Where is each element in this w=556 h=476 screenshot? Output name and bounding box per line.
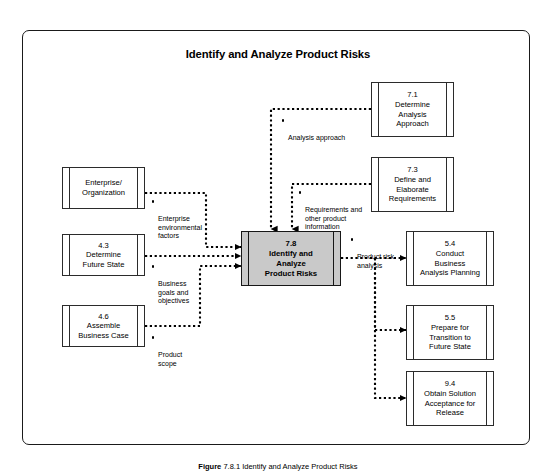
flow-label-text: Business goals and objectives — [158, 280, 189, 304]
entity-enterprise-organization[interactable]: Enterprise/ Organization — [62, 167, 145, 209]
flow-label-text: Requirements and other product informati… — [305, 206, 362, 230]
flow-label-requirements-other-product-information: Requirements and other product informati… — [305, 189, 377, 232]
process-7-3[interactable]: 7.3 Define and Elaborate Requirements — [371, 157, 454, 212]
figure-canvas: Identify and Analyze Product Risks — [0, 0, 556, 476]
flow-label-text: Product risk analysis — [357, 253, 394, 269]
bullet-icon — [152, 200, 155, 203]
bullet-icon — [282, 119, 285, 122]
flow-label-business-goals-objectives: Business goals and objectives — [158, 263, 213, 306]
figure-caption: Figure 7.8.1 Identify and Analyze Produc… — [0, 462, 556, 476]
process-9-4[interactable]: 9.4 Obtain Solution Acceptance for Relea… — [406, 371, 494, 426]
process-4-6[interactable]: 4.6 Assemble Business Case — [62, 305, 145, 347]
process-7-8-label: 7.8 Identify and Analyze Product Risks — [263, 239, 319, 279]
flow-label-product-risk-analysis: Product risk analysis — [357, 236, 413, 270]
flow-label-text: Enterprise environmental factors — [158, 215, 202, 239]
process-7-1-label: 7.1 Determine Analysis Approach — [393, 90, 432, 128]
process-7-3-label: 7.3 Define and Elaborate Requirements — [387, 165, 438, 203]
flow-label-product-scope: Product scope — [158, 334, 206, 368]
bullet-icon — [351, 238, 354, 241]
bullet-icon — [152, 336, 155, 339]
entity-enterprise-organization-label: Enterprise/ Organization — [80, 178, 127, 197]
process-4-6-label: 4.6 Assemble Business Case — [76, 312, 131, 341]
process-5-4[interactable]: 5.4 Conduct Business Analysis Planning — [406, 231, 494, 286]
flow-label-analysis-approach: Analysis approach — [288, 117, 378, 143]
figure-caption-prefix: Figure — [198, 462, 221, 471]
process-5-5-label: 5.5 Prepare for Transition to Future Sta… — [427, 313, 473, 351]
process-9-4-label: 9.4 Obtain Solution Acceptance for Relea… — [422, 379, 478, 417]
flow-label-text: Product scope — [158, 351, 182, 367]
bullet-icon — [152, 265, 155, 268]
flow-label-text: Analysis approach — [288, 134, 345, 141]
process-4-3-label: 4.3 Determine Future State — [81, 241, 127, 270]
page-title: Identify and Analyze Product Risks — [0, 48, 556, 60]
process-5-5[interactable]: 5.5 Prepare for Transition to Future Sta… — [406, 305, 494, 360]
flow-label-enterprise-environmental-factors: Enterprise environmental factors — [158, 198, 220, 241]
bullet-icon — [299, 191, 302, 194]
process-5-4-label: 5.4 Conduct Business Analysis Planning — [418, 239, 482, 277]
process-7-8-focus[interactable]: 7.8 Identify and Analyze Product Risks — [241, 231, 341, 286]
figure-caption-text: 7.8.1 Identify and Analyze Product Risks — [223, 462, 357, 471]
process-4-3[interactable]: 4.3 Determine Future State — [62, 234, 145, 276]
process-7-1[interactable]: 7.1 Determine Analysis Approach — [371, 82, 454, 137]
